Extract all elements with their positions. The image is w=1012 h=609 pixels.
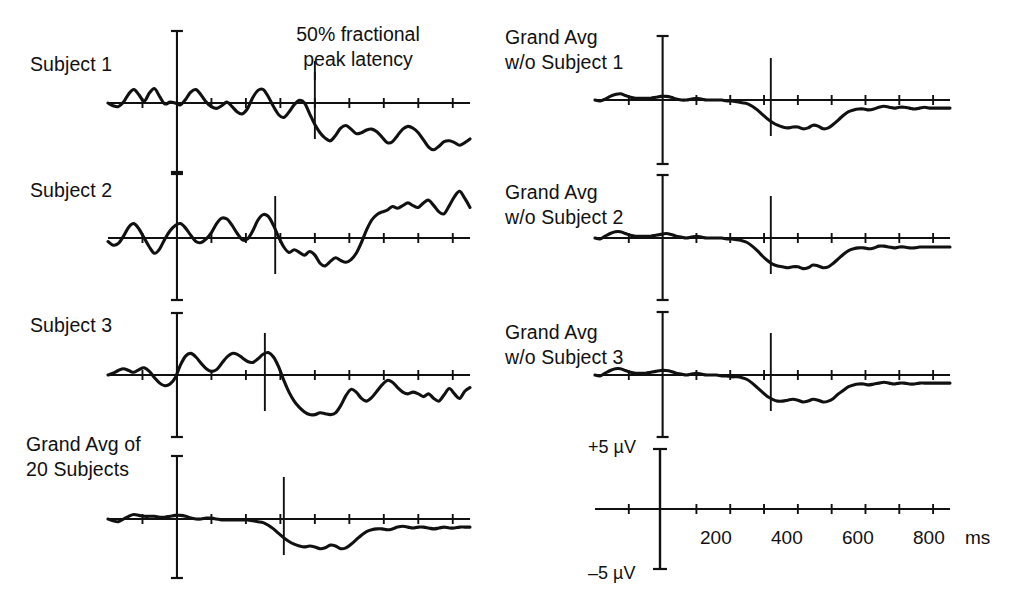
panel-grand-avg-wo-1 <box>595 36 950 164</box>
waveform-grand-avg-wo-1 <box>595 94 950 129</box>
waveform-grand-avg-wo-3 <box>595 368 950 402</box>
tick-label-600: 600 <box>842 527 874 549</box>
panel-grand-avg-wo-3 <box>595 312 950 437</box>
calibration-axis <box>595 449 950 569</box>
annotation-latency-line1: 50% fractional <box>268 22 448 47</box>
panel-label-subject-1: Subject 1 <box>30 52 112 77</box>
panel-label-subject-3: Subject 3 <box>30 313 112 338</box>
erp-waveform-figure: Subject 1 Subject 2 Subject 3 Grand Avg … <box>0 0 1012 609</box>
panel-subject-3 <box>108 313 470 437</box>
panel-subject-2 <box>108 174 470 300</box>
plot-surface <box>0 0 1012 609</box>
waveform-subject-3 <box>108 352 470 414</box>
panel-label-grand-avg-20-line1: Grand Avg of <box>26 432 141 457</box>
panel-label-subject-2: Subject 2 <box>30 178 112 203</box>
panel-grand-avg-wo-2 <box>595 175 950 300</box>
panel-label-grand-avg-wo-3-line1: Grand Avg <box>505 320 598 345</box>
calibration-label-positive: +5 µV <box>588 436 636 458</box>
waveform-subject-1 <box>108 89 470 150</box>
waveform-grand-avg-wo-2 <box>595 231 950 268</box>
annotation-latency-line2: peak latency <box>268 47 448 72</box>
tick-label-800: 800 <box>913 527 945 549</box>
panel-label-grand-avg-wo-2-line1: Grand Avg <box>505 180 598 205</box>
calibration-label-negative: –5 µV <box>588 562 635 584</box>
panel-label-grand-avg-wo-1-line2: w/o Subject 1 <box>505 50 623 75</box>
panel-label-grand-avg-20-line2: 20 Subjects <box>26 457 129 482</box>
tick-label-unit-ms: ms <box>965 527 990 549</box>
tick-label-200: 200 <box>700 527 732 549</box>
waveform-subject-2 <box>108 191 470 266</box>
panel-grand-avg-20 <box>108 456 470 578</box>
tick-label-400: 400 <box>771 527 803 549</box>
panel-label-grand-avg-wo-1-line1: Grand Avg <box>505 25 598 50</box>
panel-label-grand-avg-wo-2-line2: w/o Subject 2 <box>505 205 623 230</box>
panel-label-grand-avg-wo-3-line2: w/o Subject 3 <box>505 345 623 370</box>
